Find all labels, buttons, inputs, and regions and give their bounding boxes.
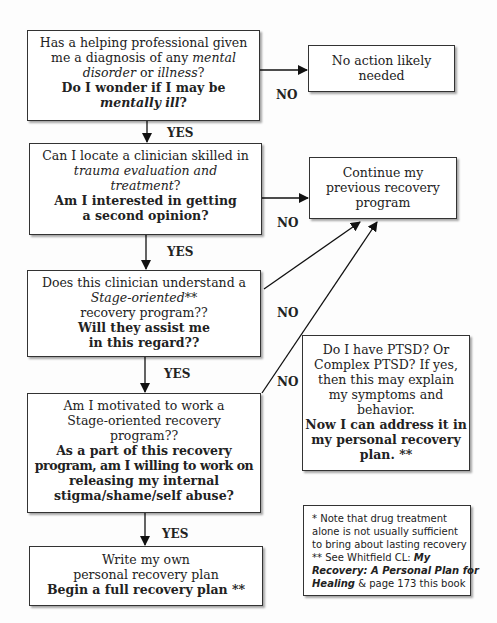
- q4-line3: program??: [28, 428, 260, 443]
- plan-bold1: Begin a full recovery plan **: [30, 582, 262, 597]
- q4-bold4: stigma/shame/self abuse?: [28, 488, 260, 503]
- q2-bold2: a second opinion?: [30, 208, 261, 223]
- q4-bold3: releasing my internal: [28, 473, 260, 488]
- q4-bold1: As a part of this recovery: [28, 443, 260, 458]
- q3-line2: Stage-oriented**: [28, 290, 260, 305]
- q1-line2-italic: mental: [192, 50, 236, 65]
- q1-line3: disorder or illness?: [28, 65, 259, 80]
- plan-line1: Write my own: [30, 552, 262, 567]
- continue-line2: previous recovery: [310, 180, 456, 195]
- q1-line3-post: ?: [198, 65, 205, 80]
- ptsd-line2: Complex PTSD? If yes,: [303, 357, 469, 372]
- q1-bold1: Do I wonder if I may be: [28, 80, 259, 95]
- footnote-line4-title: My: [414, 552, 430, 563]
- q2-line3: treatment?: [30, 178, 261, 193]
- footnote-box: * Note that drug treatment alone is not …: [303, 505, 471, 596]
- no-label-3: NO: [277, 306, 298, 320]
- q1-bold2: mentally ill?: [28, 95, 259, 110]
- footnote-line6-text: & page 173 this book: [355, 578, 465, 589]
- q3-line3: recovery program??: [28, 305, 260, 320]
- footnote-line4: ** See Whitfield CL: My: [312, 551, 462, 564]
- footnote-line6-title: Healing: [312, 578, 355, 589]
- q3-bold1: Will they assist me: [28, 320, 260, 335]
- no-label-4: NO: [277, 375, 298, 389]
- ptsd-line5: behavior.: [303, 402, 469, 417]
- footnote-line6: Healing & page 173 this book: [312, 577, 462, 590]
- q1-line3-italic1: disorder: [83, 65, 136, 80]
- recovery-plan-box: Write my own personal recovery plan Begi…: [29, 546, 263, 606]
- continue-line3: program: [310, 195, 456, 210]
- q1-bold2-post: ?: [180, 95, 187, 110]
- footnote-line2: alone is not usually sufficient: [312, 525, 462, 538]
- q2-line2: trauma evaluation and: [30, 163, 261, 178]
- yes-label-2: YES: [167, 245, 193, 259]
- no-label-2: NO: [277, 216, 298, 230]
- plan-line2: personal recovery plan: [30, 567, 262, 582]
- no-action-line1: No action likely: [309, 53, 454, 68]
- ptsd-box: Do I have PTSD? Or Complex PTSD? If yes,…: [302, 335, 470, 471]
- ptsd-bold1: Now I can address it in: [303, 417, 469, 432]
- footnote-line1: * Note that drug treatment: [312, 512, 462, 525]
- yes-label-3: YES: [164, 367, 190, 381]
- ptsd-line4: my symptoms and: [303, 387, 469, 402]
- footnote-line5: Recovery: A Personal Plan for: [312, 564, 462, 577]
- ptsd-line1: Do I have PTSD? Or: [303, 342, 469, 357]
- q2-bold1: Am I interested in getting: [30, 193, 261, 208]
- q2-line3-post: ?: [174, 178, 181, 193]
- continue-line1: Continue my: [310, 165, 456, 180]
- q4-line2: Stage-oriented recovery: [28, 413, 260, 428]
- yes-label-4: YES: [162, 527, 188, 541]
- q4-bold2: program, am I willing to work on: [28, 458, 260, 473]
- footnote-line4-text: ** See Whitfield CL:: [312, 552, 414, 563]
- question-clinician-box: Can I locate a clinician skilled in trau…: [29, 143, 262, 235]
- ptsd-bold3: plan. **: [303, 447, 469, 462]
- q3-line1: Does this clinician understand a: [28, 275, 260, 290]
- q2-line1: Can I locate a clinician skilled in: [30, 148, 261, 163]
- q1-line2-text: me a diagnosis of any: [51, 50, 192, 65]
- yes-label-1: YES: [167, 126, 193, 140]
- ptsd-bold2: my personal recovery: [303, 432, 469, 447]
- q4-line1: Am I motivated to work a: [28, 398, 260, 413]
- no-action-line2: needed: [309, 68, 454, 83]
- question-diagnosis-box: Has a helping professional given me a di…: [27, 30, 260, 121]
- q2-line3-italic: treatment: [111, 178, 174, 193]
- q1-line2: me a diagnosis of any mental: [28, 50, 259, 65]
- ptsd-line3: then this may explain: [303, 372, 469, 387]
- question-stage-oriented-box: Does this clinician understand a Stage-o…: [27, 270, 261, 357]
- no-label-1: NO: [276, 88, 297, 102]
- q1-line3-italic2: illness: [157, 65, 197, 80]
- question-motivation-box: Am I motivated to work a Stage-oriented …: [27, 393, 261, 513]
- continue-program-box: Continue my previous recovery program: [309, 157, 457, 219]
- footnote-line3: to bring about lasting recovery: [312, 538, 462, 551]
- no-action-box: No action likely needed: [308, 45, 455, 92]
- q1-bold2-italic: mentally ill: [100, 95, 180, 110]
- q3-bold2: in this regard??: [28, 335, 260, 350]
- q1-line3-mid: or: [136, 65, 157, 80]
- q1-line1: Has a helping professional given: [28, 35, 259, 50]
